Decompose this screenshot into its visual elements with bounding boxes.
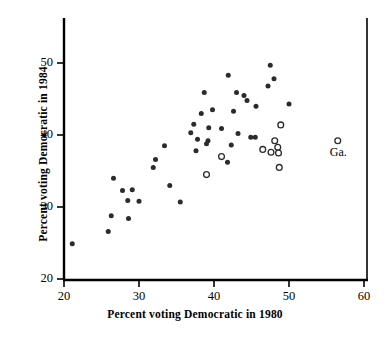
data-point-filled	[137, 199, 142, 204]
data-point-filled	[229, 143, 234, 148]
tick-marks	[57, 63, 364, 287]
x-tick-label: 40	[199, 289, 229, 304]
data-point-open	[260, 147, 266, 153]
data-point-open	[272, 138, 278, 144]
data-point-open	[276, 150, 282, 156]
data-point-open	[335, 138, 341, 144]
data-point-filled	[167, 183, 172, 188]
data-point-filled	[202, 90, 207, 95]
data-point-filled	[111, 176, 116, 181]
data-point-filled	[130, 187, 135, 192]
data-point-filled	[226, 73, 231, 78]
data-points-layer	[70, 63, 341, 247]
x-tick-label: 20	[49, 289, 79, 304]
annotation-label-ga: Ga.	[330, 145, 347, 160]
data-point-filled	[245, 98, 250, 103]
data-point-filled	[231, 109, 236, 114]
data-point-filled	[194, 148, 199, 153]
data-point-open	[268, 149, 274, 155]
data-point-filled	[206, 125, 211, 130]
data-point-filled	[125, 198, 130, 203]
data-point-filled	[210, 107, 215, 112]
data-point-filled	[151, 165, 156, 170]
data-point-filled	[106, 229, 111, 234]
data-point-filled	[268, 63, 273, 68]
y-axis-title: Percent voting Democratic in 1984	[37, 34, 49, 274]
data-point-filled	[126, 216, 131, 221]
data-point-filled	[254, 104, 259, 109]
data-point-filled	[234, 90, 239, 95]
data-point-filled	[236, 131, 241, 136]
scatter-plot-figure: 2030405060 50403020 Ga. Percent voting D…	[0, 0, 390, 340]
data-point-filled	[248, 135, 253, 140]
data-point-filled	[199, 111, 204, 116]
data-point-filled	[206, 138, 211, 143]
data-point-open	[275, 144, 281, 150]
data-point-filled	[120, 188, 125, 193]
data-point-open	[204, 172, 210, 178]
data-point-filled	[109, 213, 114, 218]
x-tick-label: 30	[124, 289, 154, 304]
data-point-filled	[219, 126, 224, 131]
data-point-filled	[242, 93, 247, 98]
x-tick-label: 50	[274, 289, 304, 304]
data-point-filled	[287, 102, 292, 107]
data-point-filled	[266, 84, 271, 89]
data-point-filled	[195, 137, 200, 142]
data-point-open	[278, 122, 284, 128]
data-point-open	[219, 154, 225, 160]
data-point-filled	[188, 130, 193, 135]
x-axis-title: Percent voting Democratic in 1980	[0, 308, 390, 320]
data-point-filled	[253, 135, 258, 140]
data-point-filled	[272, 76, 277, 81]
data-point-filled	[70, 241, 75, 246]
x-tick-label: 60	[349, 289, 379, 304]
data-point-filled	[225, 160, 230, 165]
axis-lines	[63, 18, 368, 280]
data-point-filled	[191, 122, 196, 127]
data-point-filled	[178, 199, 183, 204]
data-point-open	[276, 165, 282, 171]
data-point-filled	[153, 157, 158, 162]
data-point-filled	[162, 143, 167, 148]
